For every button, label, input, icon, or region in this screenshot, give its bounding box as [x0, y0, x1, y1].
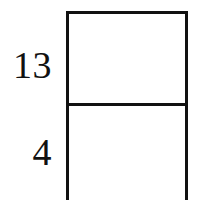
diagram-canvas: 13 4 [0, 0, 198, 200]
lower-segment-length-label: 4 [0, 133, 52, 171]
segmented-rectangle-figure [66, 11, 188, 200]
horizontal-divider-line [66, 103, 188, 106]
upper-segment-length-label: 13 [0, 46, 52, 84]
